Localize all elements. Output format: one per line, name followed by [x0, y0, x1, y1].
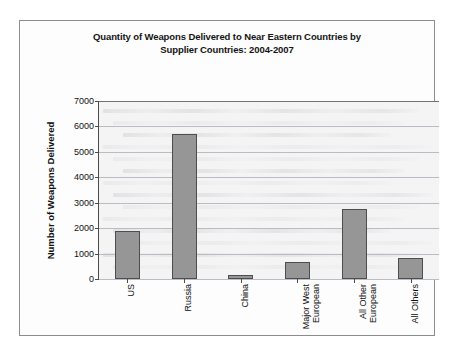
x-axis-category-label: Major WestEuropean — [301, 284, 315, 352]
bar — [285, 262, 310, 279]
x-axis-category-labels: USRussiaChinaMajor WestEuropeanAll Other… — [98, 284, 438, 352]
x-axis-tick-mark — [297, 279, 298, 283]
y-axis-tick-label: 1000 — [60, 249, 94, 259]
x-axis-tick-mark — [184, 279, 185, 283]
bar — [228, 275, 253, 279]
x-axis-tick-mark — [354, 279, 355, 283]
x-axis-label-line: Russia — [183, 284, 193, 352]
chart-title: Quantity of Weapons Delivered to Near Ea… — [20, 31, 434, 56]
bar — [342, 209, 367, 279]
x-axis-category-label: US — [126, 284, 140, 352]
x-axis-label-line: All Other — [358, 284, 368, 352]
x-axis-label-line: China — [240, 284, 250, 352]
x-axis-label-line: European — [368, 284, 378, 352]
x-axis-tick-mark — [411, 279, 412, 283]
y-axis-tick-label: 7000 — [60, 96, 94, 106]
chart-title-line-1: Quantity of Weapons Delivered to Near Ea… — [20, 31, 434, 44]
y-axis-tick-label: 0 — [60, 274, 94, 284]
x-axis-category-label: All Others — [410, 284, 424, 352]
gridline — [99, 279, 439, 280]
x-axis-label-line: All Others — [410, 284, 420, 352]
x-axis-label-line: US — [126, 284, 136, 352]
y-axis-tick-labels: 01000200030004000500060007000 — [60, 101, 94, 279]
x-axis-tick-mark — [241, 279, 242, 283]
x-axis-category-label: China — [240, 284, 254, 352]
x-axis-category-label: All OtherEuropean — [358, 284, 372, 352]
chart-title-line-2: Supplier Countries: 2004-2007 — [20, 44, 434, 57]
y-axis-title: Number of Weapons Delivered — [42, 101, 60, 279]
bar — [398, 258, 423, 279]
bar — [115, 231, 140, 279]
y-axis-tick-label: 5000 — [60, 147, 94, 157]
y-axis-tick-label: 2000 — [60, 223, 94, 233]
x-axis-tick-marks — [99, 279, 439, 283]
bar — [172, 134, 197, 279]
x-axis-category-label: Russia — [183, 284, 197, 352]
y-axis-tick-label: 3000 — [60, 198, 94, 208]
y-axis-tick-label: 6000 — [60, 121, 94, 131]
y-axis-tick-mark — [95, 279, 99, 280]
bar-series — [99, 101, 439, 279]
figure-frame: Quantity of Weapons Delivered to Near Ea… — [19, 20, 435, 336]
x-axis-label-line: European — [311, 284, 321, 352]
y-axis-tick-label: 4000 — [60, 172, 94, 182]
y-axis-title-text: Number of Weapons Delivered — [46, 121, 57, 259]
plot-area — [98, 101, 439, 280]
x-axis-label-line: Major West — [301, 284, 311, 352]
x-axis-tick-mark — [127, 279, 128, 283]
